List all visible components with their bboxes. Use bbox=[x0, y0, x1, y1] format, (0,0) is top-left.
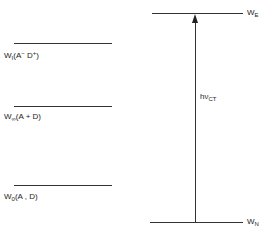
transition-arrow-shaft bbox=[195, 20, 196, 222]
arrow-up-icon bbox=[192, 14, 198, 23]
level-line-infinite-separation bbox=[14, 106, 112, 107]
level-label-excited: WE bbox=[247, 8, 259, 20]
level-label-infinite-separation: W∞(A + D) bbox=[4, 112, 41, 124]
level-line-ground-separate bbox=[14, 185, 112, 186]
level-line-ion-pair bbox=[14, 43, 112, 44]
level-label-ground-separate: W0(A , D) bbox=[4, 192, 38, 204]
level-line-ground bbox=[150, 222, 243, 223]
level-label-ion-pair: WI(A− D+) bbox=[4, 49, 39, 63]
level-label-ground: WN bbox=[247, 217, 259, 229]
transition-label: hνCT bbox=[200, 92, 216, 104]
